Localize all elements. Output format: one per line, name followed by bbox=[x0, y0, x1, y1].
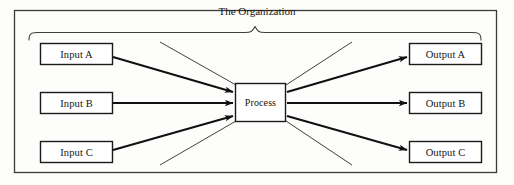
diagram-canvas bbox=[0, 0, 514, 185]
output-c-box[interactable] bbox=[410, 142, 482, 163]
arrow-input-a-to-process bbox=[113, 57, 233, 92]
input-a-box[interactable] bbox=[41, 44, 113, 65]
output-a-box[interactable] bbox=[410, 44, 482, 65]
arrow-process-to-output-c bbox=[287, 116, 407, 150]
organization-brace bbox=[29, 27, 481, 41]
output-b-box[interactable] bbox=[410, 93, 482, 114]
organization-diagram: The Organization Input A Input B Input C… bbox=[0, 0, 514, 185]
boundary-lower-right-line bbox=[286, 121, 352, 165]
input-c-box[interactable] bbox=[41, 142, 113, 163]
boundary-lower-left-line bbox=[160, 121, 236, 165]
diagram-title: The Organization bbox=[0, 5, 514, 17]
boundary-upper-left-line bbox=[160, 42, 236, 85]
input-b-box[interactable] bbox=[41, 93, 113, 114]
process-box[interactable] bbox=[236, 84, 286, 122]
arrow-process-to-output-a bbox=[287, 57, 407, 92]
boundary-upper-right-line bbox=[286, 42, 352, 85]
